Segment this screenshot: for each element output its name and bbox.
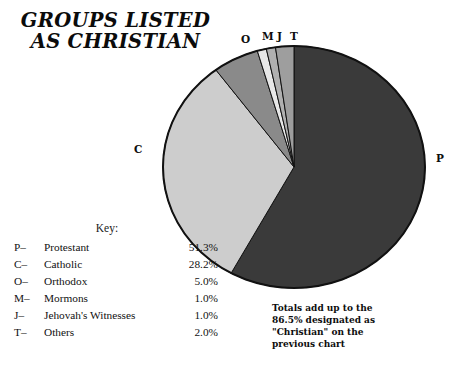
legend-row: C–Catholic28.2% <box>14 255 218 272</box>
legend-table: P–Protestant51.3%C–Catholic28.2%O–Orthod… <box>14 238 218 341</box>
legend-row: O–Orthodox5.0% <box>14 272 218 289</box>
legend-row-value: 1.0% <box>172 290 218 307</box>
annotation-line-3: "Christian" on the <box>272 327 432 339</box>
legend-row-code: P– <box>14 238 44 255</box>
title-line-1: GROUPS LISTED <box>8 10 223 31</box>
legend-row-label: Jehovah's Witnesses <box>44 307 172 324</box>
legend-row-value: 5.0% <box>172 272 218 289</box>
legend-row-code: O– <box>14 272 44 289</box>
chart-annotation: Totals add up to the 86.5% designated as… <box>272 303 432 351</box>
annotation-line-4: previous chart <box>272 339 432 351</box>
legend: Key: P–Protestant51.3%C–Catholic28.2%O–O… <box>14 222 229 341</box>
chart-figure: GROUPS LISTED AS CHRISTIAN P C O M J T K… <box>0 0 476 369</box>
legend-row-label: Mormons <box>44 290 172 307</box>
legend-row-code: J– <box>14 307 44 324</box>
legend-row: T–Others2.0% <box>14 324 218 341</box>
slice-label-o: O <box>241 33 250 45</box>
legend-heading: Key: <box>14 222 182 234</box>
legend-row-label: Orthodox <box>44 272 172 289</box>
slice-label-c: C <box>134 143 142 155</box>
legend-row-value: 51.3% <box>172 238 218 255</box>
legend-row-value: 1.0% <box>172 307 218 324</box>
legend-row: J–Jehovah's Witnesses1.0% <box>14 307 218 324</box>
slice-label-t: T <box>290 30 298 42</box>
legend-row: M–Mormons1.0% <box>14 290 218 307</box>
slice-label-j: J <box>277 30 282 42</box>
legend-row-label: Others <box>44 324 172 341</box>
legend-row: P–Protestant51.3% <box>14 238 218 255</box>
annotation-line-2: 86.5% designated as <box>272 315 432 327</box>
legend-row-value: 28.2% <box>172 255 218 272</box>
slice-label-p: P <box>436 152 444 164</box>
legend-row-value: 2.0% <box>172 324 218 341</box>
legend-row-label: Protestant <box>44 238 172 255</box>
annotation-line-1: Totals add up to the <box>272 303 432 315</box>
legend-row-code: T– <box>14 324 44 341</box>
legend-row-code: M– <box>14 290 44 307</box>
legend-row-label: Catholic <box>44 255 172 272</box>
slice-label-m: M <box>262 30 274 42</box>
legend-row-code: C– <box>14 255 44 272</box>
legend-table-body: P–Protestant51.3%C–Catholic28.2%O–Orthod… <box>14 238 218 341</box>
